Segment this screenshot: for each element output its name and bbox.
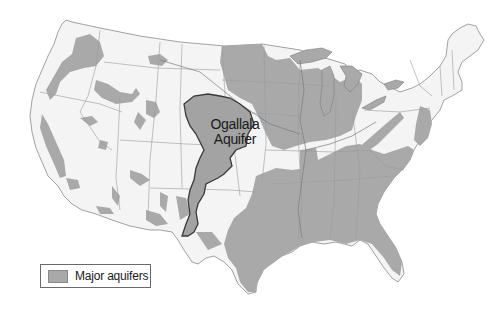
ogallala-aquifer-label: Ogallala Aquifer: [200, 117, 270, 147]
map-legend: Major aquifers: [40, 264, 151, 288]
lake-ontario: [384, 80, 404, 90]
aquifer-legend-swatch: [48, 270, 68, 283]
ogallala-label-line1: Ogallala: [200, 117, 270, 132]
ogallala-label-line2: Aquifer: [200, 132, 270, 147]
aquifer-legend-label: Major aquifers: [75, 269, 148, 283]
